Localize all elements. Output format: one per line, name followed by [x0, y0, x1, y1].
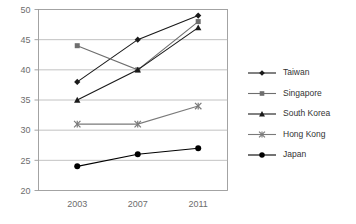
circle-marker — [135, 151, 141, 157]
series-line — [77, 148, 198, 166]
y-axis-tick-label: 50 — [20, 5, 30, 15]
chart-svg: 20253035404550 200320072011 TaiwanSingap… — [0, 0, 356, 224]
square-marker — [196, 19, 201, 24]
y-axis-tick-label: 40 — [20, 65, 30, 75]
circle-marker — [259, 152, 265, 158]
diamond-marker — [195, 12, 201, 18]
legend-label: South Korea — [283, 108, 331, 118]
y-axis-tick-label: 20 — [20, 186, 30, 196]
legend-item-japan[interactable]: Japan — [248, 149, 306, 159]
plot-area — [35, 10, 228, 191]
circle-marker — [74, 163, 80, 169]
series-line — [77, 22, 198, 70]
y-axis-tick-label: 30 — [20, 125, 30, 135]
cross-marker — [195, 103, 201, 110]
legend-item-taiwan[interactable]: Taiwan — [248, 67, 310, 77]
square-marker — [260, 91, 265, 96]
legend-item-singapore[interactable]: Singapore — [248, 88, 322, 98]
x-axis-tick-label: 2011 — [189, 199, 208, 209]
diamond-marker — [259, 70, 265, 76]
legend-item-south-korea[interactable]: South Korea — [248, 108, 331, 118]
legend-item-hong-kong[interactable]: Hong Kong — [248, 129, 326, 139]
gridlines — [39, 40, 228, 161]
circle-marker — [195, 145, 201, 151]
x-axis-tick-label: 2003 — [67, 199, 87, 209]
x-axis-tick-label: 2007 — [128, 199, 148, 209]
series-japan — [74, 145, 201, 169]
y-axis-tick-label: 45 — [20, 35, 30, 45]
triangle-marker — [195, 24, 201, 30]
series-taiwan — [74, 12, 201, 85]
chart-legend: TaiwanSingaporeSouth KoreaHong KongJapan — [248, 67, 331, 159]
data-series-group — [74, 12, 201, 169]
legend-label: Hong Kong — [283, 129, 326, 139]
y-axis-tick-label: 35 — [20, 95, 30, 105]
series-singapore — [75, 19, 201, 72]
legend-label: Singapore — [283, 88, 322, 98]
y-axis-tick-label: 25 — [20, 156, 30, 166]
series-hong-kong — [74, 103, 201, 128]
line-chart: 20253035404550 200320072011 TaiwanSingap… — [0, 0, 356, 224]
series-south-korea — [74, 24, 201, 102]
x-axis-labels: 200320072011 — [67, 199, 208, 209]
legend-label: Japan — [283, 149, 306, 159]
square-marker — [75, 43, 80, 48]
y-axis-labels: 20253035404550 — [20, 5, 30, 196]
legend-label: Taiwan — [283, 67, 310, 77]
y-axis-ticks — [35, 10, 39, 191]
